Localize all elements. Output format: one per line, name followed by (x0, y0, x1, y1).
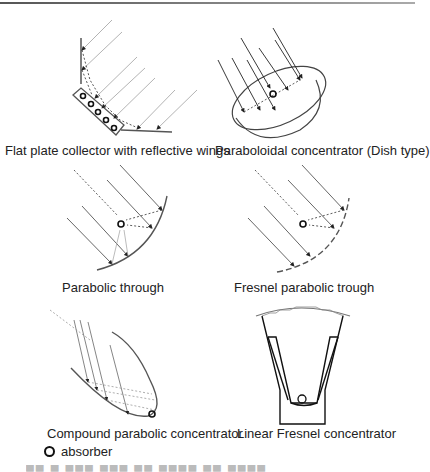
caption-parabolic-trough: Parabolic through (62, 280, 164, 295)
fresnel-trough-diagram (248, 165, 349, 272)
dish-diagram (218, 28, 335, 143)
caption-flat-plate: Flat plate collector with reflective win… (5, 143, 230, 158)
caption-fresnel-trough: Fresnel parabolic trough (234, 280, 374, 295)
linear-fresnel-diagram (256, 307, 350, 424)
flat-plate-diagram (73, 20, 197, 135)
caption-linear-fresnel: Linear Fresnel concentrator (237, 426, 396, 441)
caption-dish: Paraboloidal concentrator (Dish type) (215, 143, 430, 158)
legend-label: absorber (61, 444, 112, 459)
absorber-ring-icon (44, 446, 55, 457)
cpc-diagram (50, 310, 157, 417)
legend: absorber (44, 444, 112, 459)
cutoff-caption: ▀▀ ▀ ▀▀▀ ▀▀▀ ▀▀ ▀▀▀▀ ▀▀ ▀▀▀▀ (26, 465, 366, 472)
caption-cpc: Compound parabolic concentrator (47, 426, 243, 441)
parabolic-trough-diagram (67, 165, 167, 270)
